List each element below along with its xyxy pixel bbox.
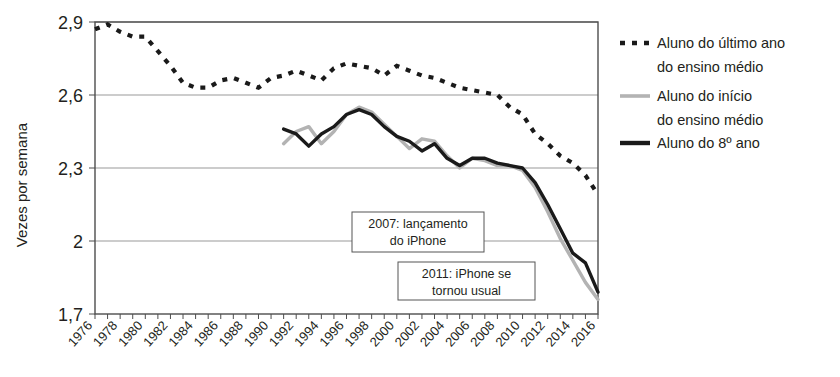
y-tick-label: 2,6 — [58, 86, 83, 106]
x-tick-label: 2008 — [467, 318, 497, 350]
chart-svg: Vezes por semana 1,722,32,62,9 197619781… — [0, 0, 840, 377]
x-tick-label: 2002 — [392, 318, 422, 350]
legend-label-0: Aluno do último ano — [657, 35, 785, 51]
y-axis-ticks: 1,722,32,62,9 — [58, 13, 95, 325]
x-tick-label: 2004 — [417, 318, 447, 350]
x-tick-label: 1992 — [266, 318, 296, 350]
gridlines — [95, 22, 598, 241]
x-tick-label: 1986 — [190, 318, 220, 350]
annotation-2007-line-0: 2007: lançamento — [368, 217, 467, 231]
x-tick-label: 1994 — [291, 318, 321, 350]
legend-label-2: Aluno do 8º ano — [657, 135, 760, 151]
chart-container: Vezes por semana 1,722,32,62,9 197619781… — [0, 0, 840, 377]
x-tick-label: 1998 — [341, 318, 371, 350]
x-tick-label: 1978 — [90, 318, 120, 350]
legend-label-0-line2: do ensino médio — [657, 59, 763, 75]
x-tick-label: 2014 — [543, 318, 573, 350]
annotation-2007-line-1: do iPhone — [390, 234, 446, 248]
x-tick-label: 1990 — [241, 318, 271, 350]
legend-label-1: Aluno do início — [657, 88, 752, 104]
y-axis-title-text: Vezes por semana — [13, 122, 30, 247]
annotation-2011-line-0: 2011: iPhone se — [422, 267, 511, 281]
annotations-layer: 2007: lançamentodo iPhone2011: iPhone se… — [352, 212, 535, 300]
y-axis-title: Vezes por semana — [13, 122, 30, 247]
x-tick-label: 1996 — [316, 318, 346, 350]
x-tick-label: 2012 — [517, 318, 547, 350]
x-tick-label: 2016 — [568, 318, 598, 350]
x-tick-label: 1980 — [115, 318, 145, 350]
x-axis-ticks: 1976197819801982198419861988199019921994… — [65, 314, 598, 350]
x-tick-label: 2006 — [442, 318, 472, 350]
y-tick-label: 2,9 — [58, 13, 83, 33]
legend-label-1-line2: do ensino médio — [657, 112, 763, 128]
annotation-2011-line-1: tornou usual — [432, 284, 501, 298]
y-tick-label: 2,3 — [58, 159, 83, 179]
x-tick-label: 2010 — [492, 318, 522, 350]
y-tick-label: 2 — [73, 232, 83, 252]
x-tick-label: 1988 — [216, 318, 246, 350]
x-tick-label: 1982 — [140, 318, 170, 350]
chart-legend: Aluno do último anodo ensino médioAluno … — [620, 35, 785, 151]
x-tick-label: 1984 — [165, 318, 195, 350]
x-tick-label: 2000 — [367, 318, 397, 350]
data-series-layer — [95, 24, 598, 299]
